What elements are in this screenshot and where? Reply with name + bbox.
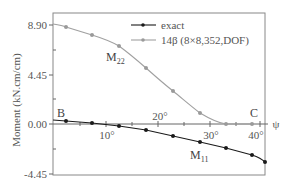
ytick-label-neg4.45: -4.45 [24,168,47,180]
m22-label: M22 [106,50,125,66]
legend-14beta-label: 14β (8×8,352,DOF) [161,34,249,47]
ytick-label-4.45: 4.45 [28,69,48,81]
m11-label: M11 [190,148,208,164]
legend-exact-marker [141,23,145,27]
x-axis-label-psi: ψ [273,118,280,130]
xtick-label-10: 10° [99,129,114,141]
ytick-label-8.90: 8.90 [28,19,48,31]
xtick-label-30: 30° [203,129,218,141]
point-b-label: B [57,106,65,120]
series-exact-line [53,120,265,162]
xtick-label-20: 20° [152,110,167,122]
legend-14beta-marker [141,38,145,42]
ytick-label-0.00: 0.00 [28,118,48,130]
moment-chart: 8.90 4.45 0.00 -4.45 10° 20° 30° 40° ψ M… [0,0,286,187]
y-axis-title: Moment (kN.cm/cm) [10,53,23,147]
point-c-label: C [250,106,258,120]
legend-exact-label: exact [161,19,184,31]
series-exact-markers [64,119,267,164]
legend: exact 14β (8×8,352,DOF) [131,19,249,47]
xtick-label-40: 40° [248,129,263,141]
